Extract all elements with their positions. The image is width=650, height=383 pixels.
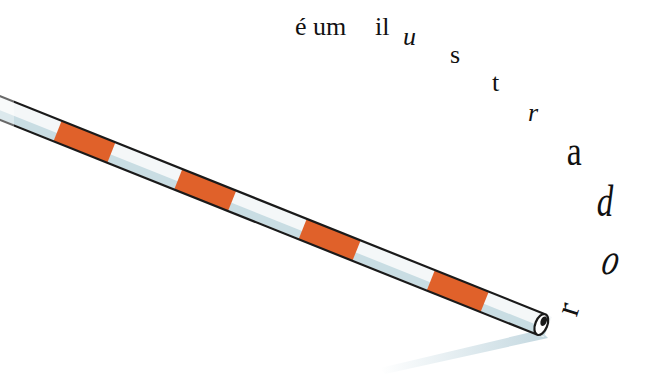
letter-r: r bbox=[528, 100, 538, 126]
letter-u: u bbox=[403, 24, 416, 50]
text-il: il bbox=[375, 12, 389, 42]
illustration: é um il u s t r a d o r bbox=[0, 0, 650, 383]
letter-d: d bbox=[597, 180, 614, 224]
letter-a: a bbox=[567, 130, 582, 172]
shadow-shape bbox=[380, 330, 548, 374]
letter-s: s bbox=[450, 42, 460, 68]
letter-t: t bbox=[492, 70, 499, 96]
striped-pole-icon bbox=[0, 0, 650, 383]
text-e-um: é um bbox=[295, 12, 346, 42]
